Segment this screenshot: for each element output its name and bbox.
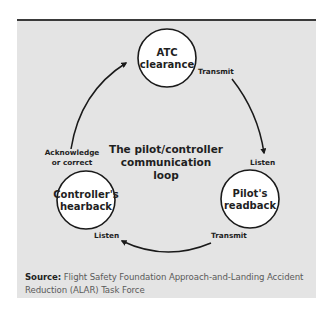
node-controller-line2: hearback xyxy=(60,201,112,212)
label-pilot-transmit: Transmit xyxy=(211,231,247,240)
diagram-title-line2: communication xyxy=(121,156,212,168)
node-pilot-readback: Pilot's readback xyxy=(221,170,279,228)
source-caption: Source: Flight Safety Foundation Approac… xyxy=(25,271,315,297)
label-controller-listen: Listen xyxy=(94,231,119,240)
node-atc-clearance: ATC clearance xyxy=(138,29,196,87)
source-label: Source: xyxy=(25,272,61,282)
node-pilot-line2: readback xyxy=(224,200,276,211)
diagram-title-line1: The pilot/controller xyxy=(109,143,224,155)
node-pilot-line1: Pilot's xyxy=(233,188,268,199)
node-atc-line1: ATC xyxy=(156,47,177,58)
label-pilot-listen: Listen xyxy=(250,158,275,167)
label-acknowledge: Acknowledge xyxy=(45,148,100,157)
node-controller-line1: Controller's xyxy=(53,189,119,200)
node-atc-line2: clearance xyxy=(140,59,195,70)
diagram-title-line3: loop xyxy=(153,169,179,181)
label-or-correct: or correct xyxy=(52,158,93,167)
arrow-controller-to-atc xyxy=(71,63,126,149)
label-atc-transmit: Transmit xyxy=(198,67,234,76)
source-text: Flight Safety Foundation Approach-and-La… xyxy=(25,272,303,295)
node-controller-hearback: Controller's hearback xyxy=(53,171,119,229)
arrow-pilot-to-controller xyxy=(122,241,211,252)
arrow-atc-to-pilot xyxy=(232,79,264,153)
